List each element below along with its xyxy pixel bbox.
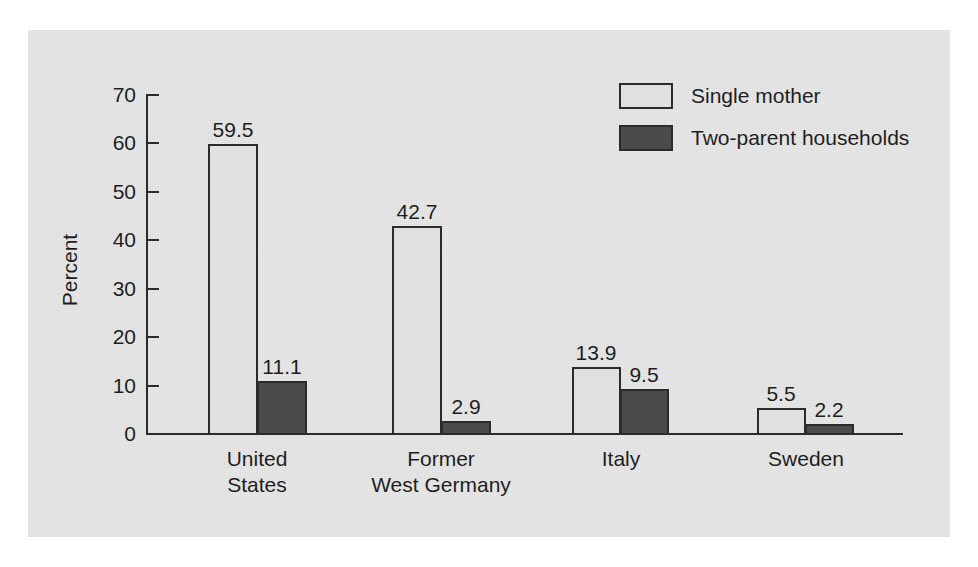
category-label-line-2: West Germany — [351, 472, 531, 498]
bar-united-states-single-mother — [208, 144, 258, 435]
y-axis-line — [146, 94, 148, 435]
y-tick-60 — [148, 142, 159, 144]
bar-united-states-two-parent — [257, 381, 307, 435]
category-label-italy: Italy — [561, 446, 681, 472]
bar-value-united-states-single-mother: 59.5 — [203, 119, 263, 140]
bar-value-sweden-two-parent: 2.2 — [799, 399, 859, 420]
bar-value-former-west-germany-two-parent: 2.9 — [436, 396, 496, 417]
bar-value-former-west-germany-single-mother: 42.7 — [387, 201, 447, 222]
y-tick-50 — [148, 191, 159, 193]
bar-italy-two-parent — [620, 389, 669, 435]
category-label-former-west-germany: Former West Germany — [351, 446, 531, 498]
y-tick-label-30: 30 — [76, 278, 136, 299]
bar-value-italy-two-parent: 9.5 — [614, 364, 674, 385]
y-tick-20 — [148, 336, 159, 338]
y-tick-30 — [148, 288, 159, 290]
legend-label-two-parent-households: Two-parent households — [691, 127, 909, 149]
legend-swatch-two-parent-households — [619, 125, 673, 151]
legend-swatch-single-mother — [619, 83, 673, 109]
y-tick-10 — [148, 385, 159, 387]
category-label-line-1: Italy — [561, 446, 681, 472]
y-tick-label-20: 20 — [76, 326, 136, 347]
category-label-line-1: Sweden — [746, 446, 866, 472]
legend-label-single-mother: Single mother — [691, 85, 821, 107]
y-tick-label-50: 50 — [76, 181, 136, 202]
bar-value-italy-single-mother: 13.9 — [566, 342, 626, 363]
y-tick-label-10: 10 — [76, 375, 136, 396]
bar-former-west-germany-two-parent — [441, 421, 491, 435]
y-tick-40 — [148, 239, 159, 241]
bar-chart-plot: 70 60 50 40 30 20 10 0 Percent 59.5 11.1… — [0, 0, 978, 567]
bar-sweden-two-parent — [805, 424, 854, 435]
y-axis-title: Percent — [58, 180, 82, 360]
category-label-line-2: States — [197, 472, 317, 498]
figure: 70 60 50 40 30 20 10 0 Percent 59.5 11.1… — [0, 0, 978, 567]
y-tick-70 — [148, 94, 159, 96]
y-tick-label-0: 0 — [76, 423, 136, 444]
y-tick-label-60: 60 — [76, 132, 136, 153]
category-label-united-states: United States — [197, 446, 317, 498]
category-label-line-1: United — [197, 446, 317, 472]
bar-former-west-germany-single-mother — [392, 226, 442, 435]
category-label-line-1: Former — [351, 446, 531, 472]
y-tick-label-70: 70 — [76, 84, 136, 105]
y-tick-0 — [148, 433, 159, 435]
y-tick-label-40: 40 — [76, 229, 136, 250]
category-label-sweden: Sweden — [746, 446, 866, 472]
bar-value-united-states-two-parent: 11.1 — [252, 356, 312, 377]
